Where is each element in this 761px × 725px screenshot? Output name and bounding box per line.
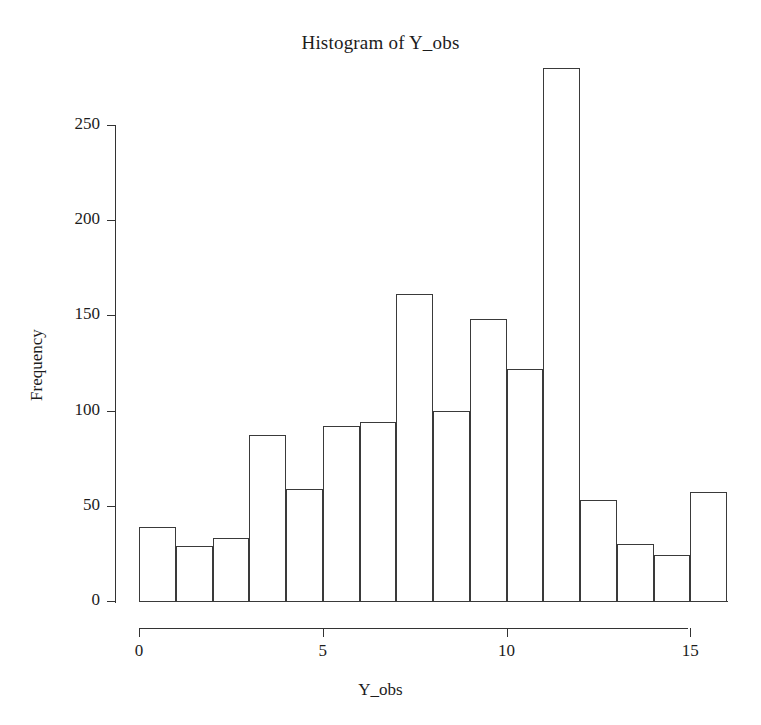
histogram-bar (617, 544, 654, 601)
x-axis-tick (507, 628, 508, 637)
x-axis-tick (323, 628, 324, 637)
histogram-bar (176, 546, 213, 601)
y-axis-tick (107, 220, 116, 221)
y-axis-tick-label: 50 (40, 495, 100, 515)
x-axis-tick-label: 5 (293, 641, 353, 661)
y-axis-tick (107, 125, 116, 126)
y-axis-tick-label: 250 (40, 114, 100, 134)
y-axis-tick (107, 315, 116, 316)
histogram-bar (580, 500, 617, 601)
histogram-bar (323, 426, 360, 601)
y-axis-tick (107, 411, 116, 412)
y-axis-line (115, 125, 116, 603)
x-axis-tick (690, 628, 691, 637)
x-axis-tick (139, 628, 140, 637)
y-axis-tick-label: 200 (40, 209, 100, 229)
histogram-bar (433, 411, 470, 601)
y-axis-tick-label: 100 (40, 400, 100, 420)
histogram-bar (543, 68, 580, 601)
x-axis-tick-label: 10 (477, 641, 537, 661)
histogram-bar (139, 527, 176, 601)
y-axis-tick-label: 150 (40, 304, 100, 324)
plot-area (139, 60, 727, 602)
histogram-bar (507, 369, 544, 601)
bars-baseline (139, 601, 728, 602)
histogram-bar (360, 422, 397, 601)
histogram-bar (286, 489, 323, 601)
histogram-bar (249, 435, 286, 601)
histogram-bar (654, 555, 691, 601)
x-axis-tick-label: 15 (660, 641, 720, 661)
histogram-bar (690, 492, 727, 601)
x-axis-title: Y_obs (0, 680, 761, 700)
histogram-bar (213, 538, 250, 601)
histogram-figure: Histogram of Y_obs Frequency 05010015020… (0, 0, 761, 725)
y-axis-tick-label: 0 (40, 590, 100, 610)
x-axis-tick-label: 0 (109, 641, 169, 661)
histogram-bar (396, 294, 433, 601)
y-axis-tick (107, 506, 116, 507)
chart-title: Histogram of Y_obs (0, 32, 761, 54)
histogram-bar (470, 319, 507, 601)
y-axis-tick (107, 601, 116, 602)
x-axis-line (139, 628, 688, 629)
